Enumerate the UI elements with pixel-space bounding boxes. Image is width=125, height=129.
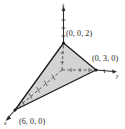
z-axis-label: z <box>62 2 64 8</box>
y-axis-tick <box>104 69 105 73</box>
vertex-dot-y <box>95 69 98 72</box>
figure-canvas <box>0 0 125 129</box>
point-label-y-intercept: (0, 3, 0) <box>92 55 118 63</box>
y-axis <box>96 69 117 74</box>
point-label-z-intercept: (0, 0, 2) <box>66 30 92 38</box>
coordinate-figure: z y x (0, 0, 2) (0, 3, 0) (6, 0, 0) <box>0 0 125 129</box>
vertex-dot-z <box>62 42 65 45</box>
x-axis-label: x <box>4 120 7 126</box>
y-axis-label: y <box>116 73 119 79</box>
vertex-dot-x <box>14 109 17 112</box>
z-axis <box>62 6 66 43</box>
point-label-x-intercept: (6, 0, 0) <box>19 118 45 126</box>
y-axis-line <box>96 70 114 72</box>
